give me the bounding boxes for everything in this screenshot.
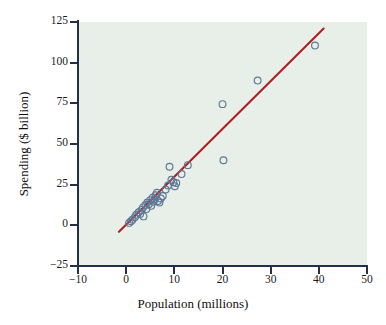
y-tick-mark [70,143,77,145]
y-tick-label: 50 [34,137,68,149]
data-point [254,77,261,84]
y-tick-label: 125 [34,15,68,27]
y-axis-title: Spending ($ billion) [16,34,32,254]
y-tick-mark [70,184,77,186]
y-tick-label: 0 [34,218,68,230]
data-points-group [126,42,319,226]
y-tick-mark [70,21,77,23]
y-tick-label: 100 [34,56,68,68]
x-tick-label: −10 [58,274,98,286]
y-tick-mark [70,62,77,64]
y-tick-label: 25 [34,178,68,190]
y-tick-label: −25 [34,259,68,271]
x-tick-label: 30 [251,274,291,286]
y-tick-mark [70,224,77,226]
y-tick-mark [70,102,77,104]
data-point [178,171,185,178]
x-tick-label: 20 [203,274,243,286]
x-axis-title: Population (millions) [0,296,386,312]
x-tick-label: 40 [299,274,339,286]
data-point [312,42,319,49]
data-point [219,101,226,108]
y-tick-label: 75 [34,96,68,108]
x-tick-label: 0 [106,274,146,286]
x-tick-label: 10 [154,274,194,286]
x-tick-label: 50 [347,274,386,286]
scatter-plot-figure: −250255075100125 −1001020304050 Populati… [0,0,386,325]
data-point [166,163,173,170]
data-point [220,157,227,164]
y-tick-mark [70,265,77,267]
